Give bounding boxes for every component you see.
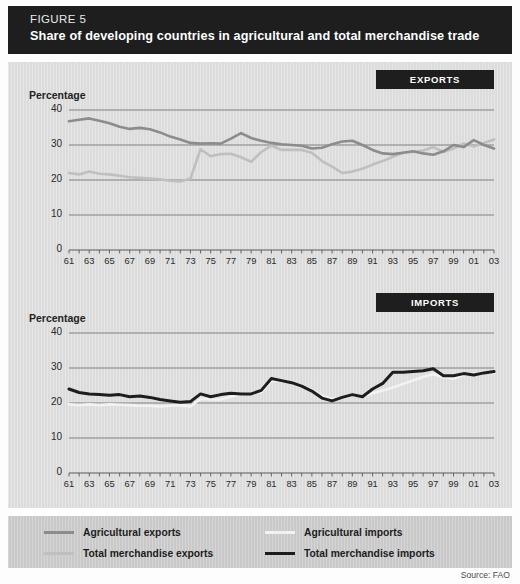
legend-label-total-merchandise-imports: Total merchandise imports <box>304 548 435 559</box>
x-axis-label: 87 <box>323 479 341 489</box>
x-axis-label: 71 <box>161 479 179 489</box>
x-axis-label: 65 <box>100 479 118 489</box>
legend-label-agricultural-imports: Agricultural imports <box>304 527 402 538</box>
figure-title: Share of developing countries in agricul… <box>30 28 512 45</box>
x-axis-label: 85 <box>303 256 321 266</box>
plot-svg-imports <box>69 333 494 473</box>
y-axis-title-exports: Percentage <box>29 89 86 101</box>
x-axis-label: 93 <box>384 479 402 489</box>
legend-swatch-agricultural-imports <box>265 531 295 534</box>
legend-swatch-total-merchandise-imports <box>265 552 295 555</box>
plot-area-imports <box>69 333 494 473</box>
plot-svg-exports <box>69 110 494 250</box>
legend-label-total-merchandise-exports: Total merchandise exports <box>83 548 213 559</box>
y-axis-label: 30 <box>36 138 62 149</box>
x-axis-label: 63 <box>80 479 98 489</box>
y-axis-label: 40 <box>36 103 62 114</box>
x-axis-label: 95 <box>404 479 422 489</box>
figure-number: FIGURE 5 <box>30 12 512 27</box>
charts-panel: EXPORTS Percentage 010203040616365676971… <box>8 62 512 508</box>
legend-item-agricultural-exports: Agricultural exports <box>44 527 181 538</box>
x-axis-label: 75 <box>202 479 220 489</box>
y-axis-label: 10 <box>36 431 62 442</box>
x-axis-label: 71 <box>161 256 179 266</box>
x-axis-label: 65 <box>100 256 118 266</box>
series-line-total-merchandise-imports <box>69 369 494 403</box>
legend-label-agricultural-exports: Agricultural exports <box>83 527 181 538</box>
x-axis-label: 77 <box>222 256 240 266</box>
x-axis-label: 67 <box>121 256 139 266</box>
figure-root: FIGURE 5 Share of developing countries i… <box>0 0 520 584</box>
series-line-agricultural-imports <box>69 373 494 407</box>
x-axis-label: 61 <box>60 479 78 489</box>
x-axis-label: 99 <box>445 256 463 266</box>
badge-imports: IMPORTS <box>376 293 494 312</box>
x-axis-label: 69 <box>141 256 159 266</box>
x-axis-label: 85 <box>303 479 321 489</box>
y-axis-label: 0 <box>36 466 62 477</box>
x-axis-label: 73 <box>181 479 199 489</box>
x-axis-label: 93 <box>384 256 402 266</box>
figure-title-bar: FIGURE 5 Share of developing countries i… <box>8 6 512 54</box>
y-axis-label: 30 <box>36 361 62 372</box>
legend-swatch-agricultural-exports <box>44 531 74 534</box>
y-axis-label: 20 <box>36 173 62 184</box>
x-axis-label: 79 <box>242 256 260 266</box>
y-axis-label: 20 <box>36 396 62 407</box>
x-axis-label: 99 <box>445 479 463 489</box>
legend-item-agricultural-imports: Agricultural imports <box>265 527 402 538</box>
chart-imports: IMPORTS Percentage 010203040616365676971… <box>8 285 512 508</box>
x-axis-label: 61 <box>60 256 78 266</box>
legend-swatch-total-merchandise-exports <box>44 552 74 555</box>
legend: Agricultural exports Agricultural import… <box>8 516 512 568</box>
plot-area-exports <box>69 110 494 250</box>
x-axis-label: 83 <box>283 256 301 266</box>
y-axis-label: 40 <box>36 326 62 337</box>
x-axis-label: 95 <box>404 256 422 266</box>
x-axis-label: 97 <box>424 479 442 489</box>
legend-item-total-merchandise-imports: Total merchandise imports <box>265 548 435 559</box>
chart-exports: EXPORTS Percentage 010203040616365676971… <box>8 62 512 285</box>
x-axis-label: 81 <box>262 479 280 489</box>
y-axis-label: 0 <box>36 243 62 254</box>
x-axis-label: 73 <box>181 256 199 266</box>
x-axis-label: 83 <box>283 479 301 489</box>
x-axis-label: 75 <box>202 256 220 266</box>
x-axis-label: 97 <box>424 256 442 266</box>
x-axis-label: 91 <box>364 479 382 489</box>
x-axis-label: 63 <box>80 256 98 266</box>
y-axis-label: 10 <box>36 208 62 219</box>
x-axis-label: 67 <box>121 479 139 489</box>
x-axis-label: 69 <box>141 479 159 489</box>
y-axis-title-imports: Percentage <box>29 312 86 324</box>
series-line-total-merchandise-exports <box>69 139 494 181</box>
x-axis-label: 89 <box>343 256 361 266</box>
x-axis-label: 91 <box>364 256 382 266</box>
badge-exports: EXPORTS <box>376 70 494 89</box>
x-axis-label: 01 <box>465 479 483 489</box>
x-axis-label: 79 <box>242 479 260 489</box>
x-axis-label: 81 <box>262 256 280 266</box>
x-axis-label: 89 <box>343 479 361 489</box>
x-axis-label: 03 <box>485 256 503 266</box>
x-axis-label: 01 <box>465 256 483 266</box>
x-axis-label: 87 <box>323 256 341 266</box>
x-axis-label: 77 <box>222 479 240 489</box>
legend-item-total-merchandise-exports: Total merchandise exports <box>44 548 213 559</box>
source-note: Source: FAO <box>461 570 510 580</box>
x-axis-label: 03 <box>485 479 503 489</box>
